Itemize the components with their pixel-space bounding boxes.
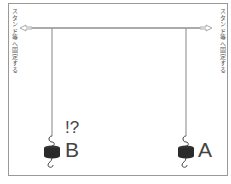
weight-a (178, 136, 194, 167)
left-arrow-icon (20, 25, 32, 31)
weight-a-label: A (198, 138, 212, 162)
right-arrow-icon (200, 25, 212, 31)
weight-b-annotation: !? (65, 118, 79, 138)
weight-b-label: B (65, 138, 79, 162)
apparatus-drawing (0, 0, 231, 184)
weight-b (44, 136, 60, 167)
